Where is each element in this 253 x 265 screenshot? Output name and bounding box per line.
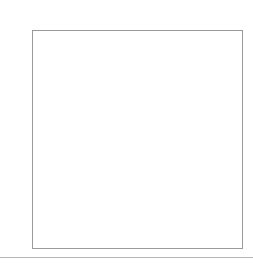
column-tint-strip [45,31,230,43]
column-labels [44,0,229,30]
row-labels [0,42,30,233]
row-tint-strip [33,43,45,234]
tint-grid [45,43,230,234]
diagram-frame [32,30,243,249]
horizontal-rule [0,257,253,258]
right-tint-strip [230,43,242,234]
corner-cell [33,31,45,43]
top-strip-end [230,31,242,43]
